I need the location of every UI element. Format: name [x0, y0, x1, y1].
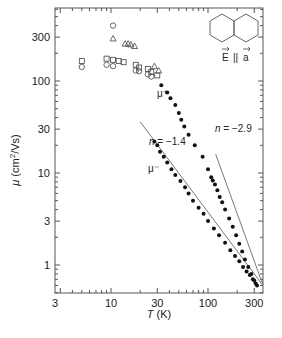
data-point — [213, 182, 217, 186]
data-point — [104, 56, 109, 61]
data-point — [241, 265, 245, 269]
svg-text:a: a — [243, 52, 249, 63]
data-point — [237, 259, 241, 263]
data-point — [79, 64, 84, 69]
data-point — [111, 57, 116, 62]
data-point — [202, 212, 206, 216]
annotation-label: n = −2.9 — [215, 123, 252, 134]
data-point — [165, 161, 169, 165]
data-point — [110, 63, 115, 68]
data-point — [251, 277, 255, 281]
data-point — [151, 63, 157, 69]
data-point — [187, 191, 191, 195]
y-tick-label: 30 — [38, 123, 50, 135]
data-series — [79, 23, 259, 287]
data-point — [183, 185, 187, 189]
mobility-temperature-chart: 31030100300 131030100300 μ⁺μ⁻n = −1.4n =… — [0, 0, 282, 338]
data-point — [246, 265, 250, 269]
y-tick-label: 300 — [32, 31, 50, 43]
y-tick-label: 100 — [32, 75, 50, 87]
data-point — [173, 103, 177, 107]
data-point — [201, 155, 205, 159]
data-point — [177, 111, 181, 115]
data-point — [159, 83, 163, 87]
data-point — [227, 217, 231, 221]
y-tick-label: 1 — [44, 259, 50, 271]
annotations: μ⁺μ⁻n = −1.4n = −2.9 — [148, 88, 252, 174]
x-tick-label: 10 — [105, 297, 117, 309]
data-point — [197, 206, 201, 210]
data-point — [220, 200, 224, 204]
data-point — [168, 96, 172, 100]
y-axis-label: μ (cm2/Vs) — [8, 134, 21, 186]
data-point — [182, 125, 186, 129]
data-point — [116, 58, 121, 63]
y-tick-label: 3 — [44, 215, 50, 227]
data-point — [169, 167, 173, 171]
data-point — [110, 35, 116, 41]
data-point — [212, 226, 216, 230]
y-tick-label: 10 — [38, 167, 50, 179]
data-point — [191, 199, 195, 203]
data-point — [110, 23, 115, 28]
data-point — [233, 254, 237, 258]
data-point — [217, 233, 221, 237]
svg-text:||: || — [233, 52, 238, 63]
x-axis-ticks — [60, 8, 254, 293]
x-tick-label: 100 — [199, 297, 217, 309]
data-point — [218, 195, 222, 199]
naphthalene-molecule-icon — [210, 14, 258, 42]
data-point — [173, 173, 177, 177]
data-point — [245, 269, 249, 273]
data-point — [187, 133, 191, 137]
data-point — [234, 233, 238, 237]
x-axis-label: T (K) — [147, 308, 171, 320]
annotation-label: μ⁺ — [157, 88, 168, 99]
x-tick-label: 3 — [52, 297, 58, 309]
data-point — [155, 73, 160, 78]
data-point — [145, 67, 150, 72]
data-point — [228, 248, 232, 252]
data-point — [206, 167, 210, 171]
data-point — [223, 208, 227, 212]
data-point — [121, 60, 126, 65]
data-point — [231, 225, 235, 229]
data-point — [211, 178, 215, 182]
svg-text:E: E — [222, 52, 229, 63]
data-point — [240, 250, 244, 254]
annotation-label: n = −1.4 — [149, 136, 186, 147]
data-point — [215, 188, 219, 192]
field-direction-label: E || a — [222, 47, 250, 63]
data-point — [162, 155, 166, 159]
annotation-label: μ⁻ — [148, 163, 159, 174]
data-point — [237, 242, 241, 246]
data-point — [193, 143, 197, 147]
data-point — [248, 273, 252, 277]
data-point — [136, 68, 141, 73]
data-point — [243, 257, 247, 261]
x-tick-label: 300 — [245, 297, 263, 309]
data-point — [179, 118, 183, 122]
data-point — [206, 219, 210, 223]
data-point — [223, 241, 227, 245]
data-point — [178, 179, 182, 183]
data-point — [158, 150, 162, 154]
data-point — [104, 62, 109, 67]
data-point — [254, 281, 258, 285]
y-axis-tick-labels: 131030100300 — [32, 31, 50, 271]
data-point — [79, 58, 84, 63]
